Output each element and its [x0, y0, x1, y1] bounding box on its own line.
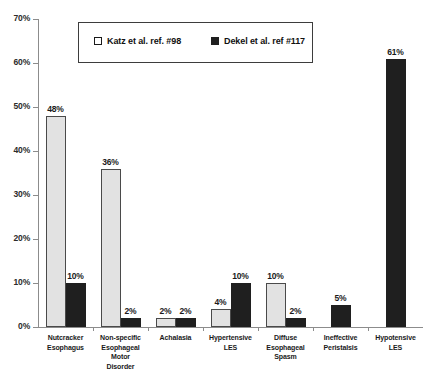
- x-axis-category-label-line: Hypotensive: [368, 333, 423, 343]
- y-axis-tick-label: 30%: [14, 189, 30, 199]
- x-axis-category-label: HypotensiveLES: [368, 333, 423, 352]
- bar-group-bars: 61%: [368, 19, 423, 327]
- y-axis-tick-label: 70%: [14, 13, 30, 23]
- x-axis-tick-mark: [93, 327, 94, 331]
- x-axis-line: [38, 327, 423, 328]
- bar-value-label: 4%: [215, 297, 227, 307]
- legend-row: Katz et al. ref. #98 Dekel et al. ref #1…: [79, 36, 312, 46]
- x-axis-category-label-line: Esophageal: [258, 343, 313, 353]
- y-axis-tick-label: 20%: [14, 233, 30, 243]
- y-axis-tick-label: 10%: [14, 277, 30, 287]
- x-axis-category-label-line: Ineffective: [313, 333, 368, 343]
- bar-group-bars: 36%2%: [93, 19, 148, 327]
- bar-group-bars: 2%2%: [148, 19, 203, 327]
- bar: 48%: [46, 116, 66, 327]
- x-axis-category-label-line: Peristalsis: [313, 343, 368, 353]
- x-axis-category-label-line: Non-specific: [93, 333, 148, 343]
- bar: 36%: [101, 169, 121, 327]
- open-square-icon: [94, 37, 102, 45]
- bar: 10%: [66, 283, 86, 327]
- x-axis-tick-mark: [258, 327, 259, 331]
- bar-value-label: 2%: [160, 306, 172, 316]
- bar: 2%: [176, 318, 196, 327]
- x-axis-category-label-line: Nutcracker: [38, 333, 93, 343]
- x-axis-category-label-line: Esophagus: [38, 343, 93, 353]
- chart-legend: Katz et al. ref. #98 Dekel et al. ref #1…: [78, 22, 313, 63]
- x-axis-category-label-line: Esophageal: [93, 343, 148, 353]
- x-axis-category-label-line: LES: [203, 343, 258, 353]
- bar-value-label: 2%: [180, 306, 192, 316]
- bar: 10%: [231, 283, 251, 327]
- bar-value-label: 36%: [102, 157, 118, 167]
- bar-group: 4%10%: [203, 19, 258, 327]
- bar-value-label: 10%: [267, 271, 283, 281]
- y-axis-tick-label: 0%: [18, 321, 30, 331]
- legend-label-dekel: Dekel et al. ref #117: [224, 36, 305, 46]
- x-axis-category-label-line: Motor: [93, 352, 148, 362]
- bar: 2%: [121, 318, 141, 327]
- filled-square-icon: [211, 37, 219, 45]
- x-axis-tick-mark: [203, 327, 204, 331]
- y-axis-tick-label: 60%: [14, 57, 30, 67]
- bar-group-bars: 48%10%: [38, 19, 93, 327]
- legend-item-katz: Katz et al. ref. #98: [94, 36, 181, 46]
- x-axis-tick-mark: [368, 327, 369, 331]
- bar-value-label: 2%: [290, 306, 302, 316]
- y-axis-tick-label: 40%: [14, 145, 30, 155]
- legend-item-dekel: Dekel et al. ref #117: [211, 36, 305, 46]
- x-axis-category-label: NutcrackerEsophagus: [38, 333, 93, 352]
- y-axis-tick-label: 50%: [14, 101, 30, 111]
- x-axis-category-label-line: Spasm: [258, 352, 313, 362]
- bar: 4%: [211, 309, 231, 327]
- x-axis-category-label-line: LES: [368, 343, 423, 353]
- x-axis-tick-mark: [148, 327, 149, 331]
- x-axis-category-label-line: Disorder: [93, 362, 148, 372]
- bar-group: 48%10%: [38, 19, 93, 327]
- y-axis-tick-mark: [33, 327, 38, 328]
- bar-group: 36%2%: [93, 19, 148, 327]
- x-axis-category-label: IneffectivePeristalsis: [313, 333, 368, 352]
- bar-group: 2%2%: [148, 19, 203, 327]
- bar-value-label: 48%: [47, 104, 63, 114]
- x-axis-category-label: Achalasia: [148, 333, 203, 343]
- x-axis-category-label-line: Diffuse: [258, 333, 313, 343]
- bar-group-bars: 10%2%: [258, 19, 313, 327]
- x-axis-category-label: DiffuseEsophagealSpasm: [258, 333, 313, 362]
- bar-value-label: 10%: [67, 271, 83, 281]
- x-axis-tick-mark: [313, 327, 314, 331]
- bar: 2%: [156, 318, 176, 327]
- bar: 2%: [286, 318, 306, 327]
- bar-group: 5%: [313, 19, 368, 327]
- bar-group-bars: 4%10%: [203, 19, 258, 327]
- bar-value-label: 61%: [387, 47, 403, 57]
- bar: 61%: [386, 59, 406, 327]
- bar-value-label: 5%: [335, 293, 347, 303]
- x-axis-category-label-line: Hypertensive: [203, 333, 258, 343]
- bar-value-label: 10%: [232, 271, 248, 281]
- bar-chart: 0%10%20%30%40%50%60%70% 61%5%10%2%4%10%2…: [0, 0, 429, 379]
- x-axis-category-label-line: Achalasia: [148, 333, 203, 343]
- x-axis-category-label: HypertensiveLES: [203, 333, 258, 352]
- bar-group: 10%2%: [258, 19, 313, 327]
- bar: 5%: [331, 305, 351, 327]
- bar-group-bars: 5%: [313, 19, 368, 327]
- legend-label-katz: Katz et al. ref. #98: [107, 36, 181, 46]
- bar-group: 61%: [368, 19, 423, 327]
- bar: 10%: [266, 283, 286, 327]
- bar-value-label: 2%: [125, 306, 137, 316]
- x-axis-category-label: Non-specificEsophagealMotorDisorder: [93, 333, 148, 371]
